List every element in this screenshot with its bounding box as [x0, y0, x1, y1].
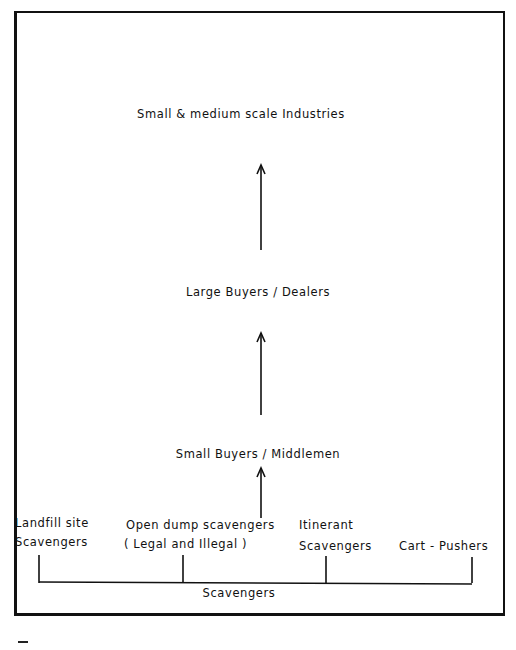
- node-industries: Small & medium scale Industries: [137, 107, 345, 121]
- scan-mark: [18, 641, 28, 643]
- scavenger-open-dump-line2: ( Legal and Illegal ): [124, 537, 247, 551]
- scavenger-cart-pushers: Cart - Pushers: [399, 539, 488, 553]
- scavengers-bracket: [39, 582, 472, 584]
- node-small-buyers: Small Buyers / Middlemen: [176, 447, 341, 461]
- scavenger-landfill-line1: Landfill site: [15, 516, 89, 530]
- scavengers-group-label: Scavengers: [203, 586, 276, 600]
- scavenger-landfill-line2: Scavengers: [15, 535, 88, 549]
- scavenger-itinerant-line2: Scavengers: [299, 539, 372, 553]
- node-large-buyers: Large Buyers / Dealers: [186, 285, 330, 299]
- scavenger-open-dump-line1: Open dump scavengers: [126, 518, 275, 532]
- scavenger-itinerant-line1: Itinerant: [299, 518, 353, 532]
